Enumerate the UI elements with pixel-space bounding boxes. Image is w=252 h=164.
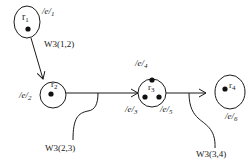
edge-label-e1: /e/1 xyxy=(41,6,55,18)
node-r2-label: r2 xyxy=(51,79,58,91)
edge-label-e4: /e/4 xyxy=(134,58,148,70)
connection-r1-r2 xyxy=(31,38,43,79)
node-r1-dot xyxy=(25,26,30,31)
node-r3-label: r3 xyxy=(148,82,155,94)
node-r2-dot xyxy=(48,91,53,96)
node-r1: r1 /e/1 xyxy=(14,6,55,38)
diagram-canvas: r1 /e/1 W3(1,2) r2 /e/2 W3(2,3) r3 /e/4 … xyxy=(0,0,252,164)
node-r1-label: r1 xyxy=(22,11,29,24)
edge-label-e5: /e/5 xyxy=(159,104,173,116)
edge-label-e3: /e/3 xyxy=(124,104,138,116)
edge-label-e6: /e/6 xyxy=(224,111,238,123)
connection-label-w3-2-3: W3(2,3) xyxy=(45,143,75,153)
node-r4: r4 /e/6 xyxy=(215,75,245,123)
node-r3-dot-left xyxy=(142,94,147,99)
node-r2: r2 /e/2 xyxy=(18,79,66,108)
connection-label-w3-1-2: W3(1,2) xyxy=(44,39,74,49)
node-r4-label: r4 xyxy=(229,80,236,92)
connection-label-w3-3-4: W3(3,4) xyxy=(196,149,226,159)
node-r3: r3 /e/4 /e/3 /e/5 xyxy=(124,58,173,116)
node-r3-dot-right xyxy=(156,94,161,99)
leader-line-w3-2-3 xyxy=(73,93,98,140)
leader-line-w3-3-4 xyxy=(189,93,215,148)
node-r4-dot xyxy=(222,86,227,91)
edge-label-e2: /e/2 xyxy=(18,90,32,102)
